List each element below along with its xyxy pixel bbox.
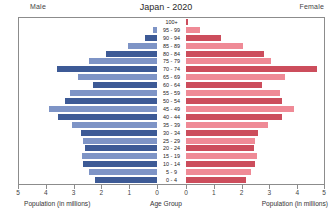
male-bar-cell: [19, 105, 157, 113]
female-bar: [186, 82, 262, 88]
age-group-label: 60 - 64: [157, 81, 186, 89]
male-bar-cell: [19, 26, 157, 34]
female-bar-cell: [186, 73, 324, 81]
pyramid-row: 55 - 59: [19, 89, 324, 97]
axis-tick-label: 2: [100, 189, 104, 196]
age-group-label: 80 - 84: [157, 50, 186, 58]
female-bar-cell: [186, 97, 324, 105]
female-bar: [186, 138, 256, 144]
population-pyramid-chart: Male Japan - 2020 Female 100+95 - 9990 -…: [0, 0, 332, 220]
female-bar-cell: [186, 89, 324, 97]
axis-tick-label: 3: [72, 189, 76, 196]
pyramid-row: 10 - 14: [19, 160, 324, 168]
male-bar: [95, 177, 158, 183]
age-group-label: 15 - 19: [157, 152, 186, 160]
male-bar: [70, 90, 158, 96]
male-bar-cell: [19, 42, 157, 50]
female-bar-cell: [186, 121, 324, 129]
chart-title: Japan - 2020: [0, 2, 332, 12]
age-group-label: 40 - 44: [157, 113, 186, 121]
male-bar: [58, 114, 157, 120]
female-bar: [186, 161, 256, 167]
female-bar-cell: [186, 42, 324, 50]
female-bar: [186, 74, 285, 80]
age-group-label: 25 - 29: [157, 137, 186, 145]
pyramid-row: 50 - 54: [19, 97, 324, 105]
male-bar: [145, 35, 158, 41]
pyramid-row: 75 - 79: [19, 58, 324, 66]
pyramid-row: 70 - 74: [19, 65, 324, 73]
female-bar-cell: [186, 160, 324, 168]
female-bar-cell: [186, 18, 324, 26]
pyramid-row: 90 - 94: [19, 34, 324, 42]
male-bar: [128, 43, 157, 49]
age-group-label: 45 - 49: [157, 105, 186, 113]
axis-tick-label: 1: [127, 189, 131, 196]
male-bar: [81, 130, 157, 136]
axis-tick-label: 4: [44, 189, 48, 196]
female-side-label: Female: [299, 3, 324, 10]
axis-tick-label: 5: [16, 189, 20, 196]
age-group-label: 55 - 59: [157, 89, 186, 97]
female-bar-cell: [186, 129, 324, 137]
male-bar: [49, 106, 157, 112]
female-bar-cell: [186, 145, 324, 153]
pyramid-row: 20 - 24: [19, 145, 324, 153]
male-bar-cell: [19, 34, 157, 42]
pyramid-row: 40 - 44: [19, 113, 324, 121]
plot-area: 100+95 - 9990 - 9485 - 8980 - 8475 - 797…: [18, 17, 325, 185]
male-bar-cell: [19, 81, 157, 89]
female-bar: [186, 51, 264, 57]
male-bar: [65, 98, 157, 104]
male-bar: [83, 161, 157, 167]
male-bar-cell: [19, 121, 157, 129]
female-bar-cell: [186, 105, 324, 113]
female-bar: [186, 177, 246, 183]
pyramid-row: 65 - 69: [19, 73, 324, 81]
female-bar-cell: [186, 168, 324, 176]
male-bar-cell: [19, 168, 157, 176]
age-group-label: 75 - 79: [157, 58, 186, 66]
female-bar: [186, 169, 251, 175]
male-bar-cell: [19, 18, 157, 26]
male-bar: [89, 58, 157, 64]
female-bar: [186, 90, 281, 96]
male-bar: [93, 82, 157, 88]
male-bar-cell: [19, 65, 157, 73]
pyramid-row: 15 - 19: [19, 152, 324, 160]
x-axis: 543210012345: [18, 185, 325, 199]
female-bar: [186, 114, 282, 120]
male-bar-cell: [19, 50, 157, 58]
male-bar: [72, 122, 157, 128]
age-group-label: 30 - 34: [157, 129, 186, 137]
pyramid-row: 85 - 89: [19, 42, 324, 50]
female-bar: [186, 130, 258, 136]
male-bar: [82, 153, 157, 159]
female-bar: [186, 122, 268, 128]
pyramid-row: 35 - 39: [19, 121, 324, 129]
pyramid-row: 100+: [19, 18, 324, 26]
age-group-label: 10 - 14: [157, 160, 186, 168]
axis-tick-label: 1: [212, 189, 216, 196]
female-bar-cell: [186, 81, 324, 89]
female-bar: [186, 35, 221, 41]
age-group-label: 100+: [157, 18, 186, 26]
male-bar: [83, 138, 157, 144]
axis-caption-right: Population (in millions): [262, 200, 328, 207]
male-bar-cell: [19, 152, 157, 160]
male-bar: [78, 74, 157, 80]
axis-tick-label: 0: [184, 189, 188, 196]
male-bar: [85, 145, 157, 151]
age-group-label: 20 - 24: [157, 145, 186, 153]
male-bar-cell: [19, 145, 157, 153]
female-bar-cell: [186, 50, 324, 58]
male-bar: [89, 169, 157, 175]
male-bar-cell: [19, 97, 157, 105]
female-bar-cell: [186, 26, 324, 34]
female-bar-cell: [186, 113, 324, 121]
male-bar-cell: [19, 160, 157, 168]
female-bar: [186, 145, 254, 151]
male-bar: [57, 66, 157, 72]
pyramid-row: 25 - 29: [19, 137, 324, 145]
female-bar: [186, 27, 200, 33]
